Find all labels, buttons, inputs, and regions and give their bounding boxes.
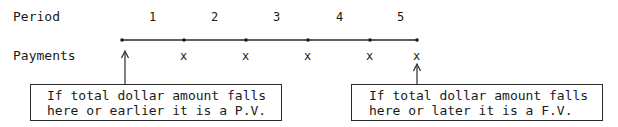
future-value-callout: If total dollar amount falls here or lat… xyxy=(351,84,603,121)
period-label-1: 1 xyxy=(149,10,156,24)
present-value-callout: If total dollar amount falls here or ear… xyxy=(30,84,282,121)
future-value-callout-line1: If total dollar amount falls xyxy=(369,88,602,103)
timeline-point-5 xyxy=(415,38,419,42)
present-value-callout-line1: If total dollar amount falls xyxy=(47,88,281,103)
timeline-point-2 xyxy=(244,38,248,42)
left-arrow-icon xyxy=(122,51,129,84)
payment-mark-5: x xyxy=(413,49,420,63)
future-value-callout-line2: here or later it is a F.V. xyxy=(369,103,602,118)
payment-mark-4: x xyxy=(366,49,373,63)
payment-mark-3: x xyxy=(304,49,311,63)
timeline-point-4 xyxy=(368,38,372,42)
timeline-point-3 xyxy=(306,38,310,42)
period-label-5: 5 xyxy=(397,10,404,24)
present-value-callout-line2: here or earlier it is a P.V. xyxy=(47,103,281,118)
payments-row-label: Payments xyxy=(13,48,76,63)
period-label-3: 3 xyxy=(273,10,280,24)
period-label-2: 2 xyxy=(211,10,218,24)
timeline-point-0 xyxy=(120,38,124,42)
payment-mark-1: x xyxy=(180,49,187,63)
timeline-point-1 xyxy=(182,38,186,42)
period-row-label: Period xyxy=(13,9,60,24)
period-label-4: 4 xyxy=(336,10,343,24)
right-arrow-icon xyxy=(414,64,421,84)
payment-mark-2: x xyxy=(242,49,249,63)
